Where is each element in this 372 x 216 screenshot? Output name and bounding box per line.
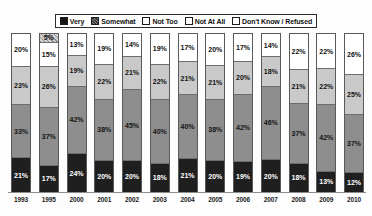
bar-segment-nottoo[interactable]: 23% [12,66,30,104]
bar-2010[interactable]: 26%25%37%12% [344,33,364,193]
bar-segment-very[interactable]: 20% [262,159,280,192]
bar-2000[interactable]: 13%19%42%24% [67,33,87,193]
x-tick-label-2010: 2010 [344,196,364,203]
hatched-gray-square-icon [91,17,99,25]
bar-segment-very[interactable]: 13% [317,171,335,192]
bar-segment-very[interactable]: 18% [290,163,308,192]
bar-segment-nottoo[interactable]: 22% [317,68,335,103]
bar-segment-notatall[interactable]: 20% [206,34,224,65]
segment-value-label: 20% [208,173,222,180]
bar-segment-very[interactable]: 17% [40,165,58,192]
bar-2002[interactable]: 14%21%45%20% [122,33,142,193]
bar-segment-somewhat[interactable]: 42% [68,86,86,153]
bar-segment-nottoo[interactable]: 19% [68,55,86,86]
bar-segment-somewhat[interactable]: 40% [179,94,197,158]
bar-segment-notatall[interactable]: 26% [345,34,363,74]
legend-box: VerySomewhatNot TooNot At AllDon't Know … [55,14,317,28]
segment-value-label: 14% [125,41,139,48]
bar-segment-notatall[interactable]: 22% [317,34,335,68]
bar-segment-notatall[interactable]: 17% [179,34,197,61]
segment-value-label: 21% [125,69,139,76]
stacked-bar-chart: VerySomewhatNot TooNot At AllDon't Know … [0,0,372,216]
bar-segment-nottoo[interactable]: 22% [151,64,169,99]
segment-value-label: 18% [153,174,167,181]
bar-2001[interactable]: 19%22%38%20% [94,33,114,193]
bar-segment-nottoo[interactable]: 21% [123,56,141,90]
segment-value-label: 20% [264,173,278,180]
segment-value-label: 42% [319,134,333,141]
legend-item-not-too[interactable]: Not Too [142,17,177,25]
bar-segment-very[interactable]: 19% [234,161,252,192]
legend-item-not-at-all[interactable]: Not At All [185,17,225,25]
bar-2005[interactable]: 20%21%38%20% [205,33,225,193]
bar-segment-dont-know[interactable]: 5% [40,34,58,42]
segment-value-label: 26% [347,51,361,58]
bar-segment-very[interactable]: 24% [68,153,86,192]
bar-segment-very[interactable]: 20% [123,160,141,192]
segment-value-label: 38% [97,126,111,133]
bar-segment-somewhat[interactable]: 45% [123,89,141,160]
bar-segment-notatall[interactable]: 20% [12,34,30,66]
bar-segment-somewhat[interactable]: 42% [317,104,335,171]
bar-2004[interactable]: 17%21%40%21% [178,33,198,193]
bar-1993[interactable]: 20%23%33%21% [11,33,31,193]
plot-area: 20%23%33%21%5%15%26%37%17%13%19%42%24%19… [0,33,372,193]
segment-value-label: 26% [42,83,56,90]
bar-2008[interactable]: 22%21%37%18% [289,33,309,193]
bar-segment-very[interactable]: 20% [206,160,224,192]
x-tick-label-2007: 2007 [261,196,281,203]
segment-value-label: 21% [14,172,28,179]
bar-segment-notatall[interactable]: 19% [95,34,113,64]
bar-segment-notatall[interactable]: 14% [262,34,280,56]
bar-segment-notatall[interactable]: 22% [290,34,308,69]
bar-segment-somewhat[interactable]: 42% [234,94,252,161]
bar-segment-notatall[interactable]: 15% [40,42,58,66]
solid-black-square-icon [60,17,68,25]
segment-value-label: 12% [347,179,361,186]
bar-segment-somewhat[interactable]: 46% [262,86,280,160]
bar-segment-very[interactable]: 20% [95,160,113,192]
bar-segment-somewhat[interactable]: 38% [206,99,224,160]
bar-segment-nottoo[interactable]: 25% [345,74,363,114]
bar-segment-somewhat[interactable]: 38% [95,99,113,160]
segment-value-label: 22% [291,48,305,55]
bar-segment-very[interactable]: 21% [179,158,197,192]
bar-segment-notatall[interactable]: 14% [123,34,141,56]
bar-segment-somewhat[interactable]: 33% [12,104,30,158]
bar-2003[interactable]: 19%22%40%18% [150,33,170,193]
bar-1995[interactable]: 5%15%26%37%17% [39,33,59,193]
bar-segment-nottoo[interactable]: 20% [234,61,252,94]
bar-segment-nottoo[interactable]: 21% [206,65,224,99]
x-axis-labels: 1993199520002001200220032004200520062007… [11,196,364,212]
bar-2009[interactable]: 22%22%42%13% [316,33,336,193]
segment-value-label: 19% [97,45,111,52]
bar-segment-nottoo[interactable]: 21% [179,61,197,95]
bar-segment-somewhat[interactable]: 37% [40,107,58,165]
segment-value-label: 45% [125,122,139,129]
segment-value-label: 37% [42,133,56,140]
segment-value-label: 21% [208,79,222,86]
x-tick-label-2003: 2003 [150,196,170,203]
x-tick-label-2001: 2001 [94,196,114,203]
bar-2006[interactable]: 17%20%42%19% [233,33,253,193]
bar-segment-somewhat[interactable]: 37% [345,114,363,172]
bar-segment-notatall[interactable]: 19% [151,34,169,64]
bar-segment-notatall[interactable]: 17% [234,34,252,61]
bar-segment-very[interactable]: 18% [151,163,169,192]
legend-item-dont-know[interactable]: Don't Know / Refused [232,17,312,25]
legend-item-somewhat[interactable]: Somewhat [91,17,135,25]
bar-segment-very[interactable]: 12% [345,172,363,192]
bar-segment-notatall[interactable]: 13% [68,34,86,55]
bar-segment-nottoo[interactable]: 22% [95,64,113,99]
bar-segment-somewhat[interactable]: 37% [290,103,308,163]
bar-2007[interactable]: 14%18%46%20% [261,33,281,193]
segment-value-label: 18% [291,174,305,181]
bar-segment-nottoo[interactable]: 21% [290,69,308,103]
bar-segment-somewhat[interactable]: 40% [151,99,169,163]
bar-segment-very[interactable]: 21% [12,157,30,192]
bar-segment-nottoo[interactable]: 18% [262,56,280,85]
legend-item-very[interactable]: Very [60,17,84,25]
bar-segment-nottoo[interactable]: 26% [40,66,58,107]
segment-value-label: 20% [97,173,111,180]
segment-value-label: 19% [153,45,167,52]
